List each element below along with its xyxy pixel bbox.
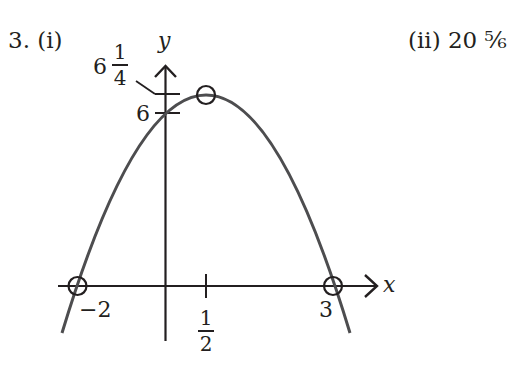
fraction-numerator: 1	[114, 42, 127, 62]
y-max-whole: 6	[93, 56, 107, 78]
y-axis-label: y	[158, 30, 170, 52]
fraction-denominator: 2	[200, 334, 213, 354]
parabola-chart	[0, 0, 513, 377]
x-axis-label: x	[383, 274, 395, 296]
fraction-numerator: 1	[200, 308, 213, 328]
y-max-fraction: 1 4	[112, 42, 128, 88]
y-tick-label-6: 6	[136, 103, 150, 125]
leader-line	[136, 81, 155, 94]
x-tick-label-3: 3	[319, 299, 333, 321]
fraction-denominator: 4	[114, 68, 127, 88]
x-tick-label-neg2: −2	[79, 299, 111, 321]
x-tick-label-half: 1 2	[198, 308, 214, 354]
